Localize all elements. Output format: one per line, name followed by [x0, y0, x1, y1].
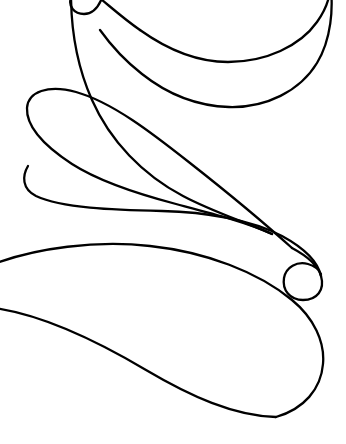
canvas-background — [0, 0, 346, 444]
line-art-illustration — [0, 0, 346, 444]
drawing-canvas — [0, 0, 346, 444]
